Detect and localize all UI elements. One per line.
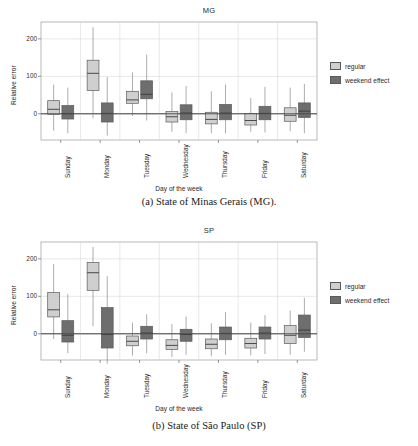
box-body bbox=[284, 326, 296, 344]
tick-label-x: Sunday bbox=[64, 156, 71, 178]
box-body bbox=[87, 263, 99, 291]
tick-label-x: Tuesday bbox=[143, 374, 150, 398]
box-body bbox=[127, 91, 139, 103]
boxplot-mg bbox=[0, 0, 418, 196]
chart-area-mg: MG regular weekend effect 0100200SundayM… bbox=[0, 0, 418, 196]
x-axis-title: Day of the week bbox=[41, 185, 317, 192]
box-body bbox=[87, 60, 99, 90]
box-body bbox=[166, 340, 178, 350]
tick-label-x: Saturday bbox=[300, 152, 307, 178]
legend-item-regular[interactable]: regular bbox=[330, 62, 389, 70]
legend-item-weekend-effect[interactable]: weekend effect bbox=[330, 76, 389, 84]
tick-label-x: Sunday bbox=[64, 376, 71, 398]
tick-label-x: Monday bbox=[103, 155, 110, 178]
tick-label-y: 0 bbox=[15, 110, 37, 117]
tick-label-x: Saturday bbox=[300, 372, 307, 398]
tick-label-y: 200 bbox=[15, 35, 37, 42]
box-body bbox=[141, 81, 153, 99]
box-body bbox=[245, 113, 257, 125]
box-body bbox=[180, 329, 192, 341]
box-body bbox=[284, 108, 296, 121]
tick-label-y: 0 bbox=[15, 330, 37, 337]
legend-swatch-regular-icon bbox=[330, 282, 341, 290]
caption-sp: (b) State of São Paulo (SP) bbox=[0, 420, 418, 431]
box-body bbox=[48, 293, 60, 317]
box-body bbox=[220, 104, 232, 119]
tick-label-x: Friday bbox=[261, 380, 268, 398]
plot-frame bbox=[41, 22, 317, 140]
tick-label-x: Wednesday bbox=[182, 144, 189, 178]
figure-mg: MG regular weekend effect 0100200SundayM… bbox=[0, 0, 418, 220]
box-body bbox=[101, 308, 113, 348]
legend-item-weekend-effect[interactable]: weekend effect bbox=[330, 296, 389, 304]
legend-item-regular[interactable]: regular bbox=[330, 282, 389, 290]
box-body bbox=[298, 103, 310, 118]
box-body bbox=[101, 103, 113, 122]
box-body bbox=[48, 101, 60, 115]
tick-label-y: 200 bbox=[15, 255, 37, 262]
legend-swatch-weekend-icon bbox=[330, 296, 341, 304]
legend-label-weekend-effect: weekend effect bbox=[345, 77, 389, 84]
boxplot-sp bbox=[0, 220, 418, 416]
box-body bbox=[62, 106, 74, 119]
tick-label-y: 100 bbox=[15, 292, 37, 299]
legend-swatch-weekend-icon bbox=[330, 76, 341, 84]
figure-page: MG regular weekend effect 0100200SundayM… bbox=[0, 0, 418, 446]
box-body bbox=[180, 105, 192, 120]
legend-label-regular: regular bbox=[345, 63, 366, 70]
box-body bbox=[62, 321, 74, 342]
tick-label-x: Thursday bbox=[221, 151, 228, 178]
tick-label-x: Friday bbox=[261, 160, 268, 178]
legend-label-regular: regular bbox=[345, 283, 366, 290]
tick-label-x: Wednesday bbox=[182, 364, 189, 398]
plot-frame bbox=[41, 242, 317, 360]
caption-mg: (a) State of Minas Gerais (MG). bbox=[0, 196, 418, 207]
chart-area-sp: SP regular weekend effect 0100200SundayM… bbox=[0, 220, 418, 416]
legend-sp: regular weekend effect bbox=[330, 282, 389, 310]
x-axis-title: Day of the week bbox=[41, 405, 317, 412]
y-axis-title: Relative error bbox=[10, 65, 17, 105]
legend-label-weekend-effect: weekend effect bbox=[345, 297, 389, 304]
figure-sp: SP regular weekend effect 0100200SundayM… bbox=[0, 220, 418, 446]
legend-swatch-regular-icon bbox=[330, 62, 341, 70]
tick-label-x: Tuesday bbox=[143, 154, 150, 178]
tick-label-y: 100 bbox=[15, 72, 37, 79]
legend-mg: regular weekend effect bbox=[330, 62, 389, 90]
tick-label-x: Monday bbox=[103, 375, 110, 398]
tick-label-x: Thursday bbox=[221, 371, 228, 398]
y-axis-title: Relative error bbox=[10, 285, 17, 325]
